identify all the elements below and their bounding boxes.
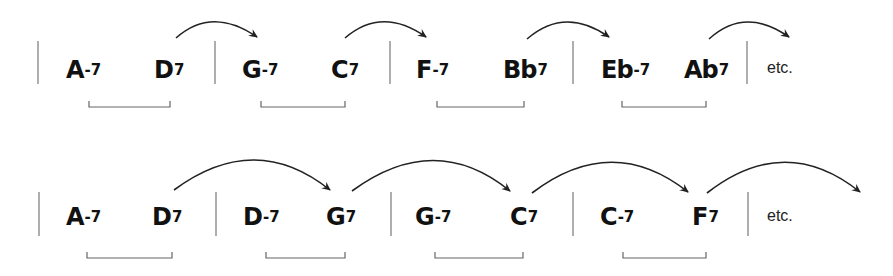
arrow-icon bbox=[352, 161, 510, 192]
chord-quality: -7 bbox=[85, 208, 102, 226]
chord-quality: -7 bbox=[618, 208, 635, 226]
chord-d-minor7: D-7 bbox=[243, 203, 280, 231]
chord-root: Ab bbox=[684, 56, 718, 84]
chord-root: C bbox=[600, 203, 617, 231]
chord-quality: -7 bbox=[432, 61, 449, 79]
bracket bbox=[87, 252, 172, 258]
chord-f-minor7: F-7 bbox=[416, 56, 449, 84]
chord-quality: 7 bbox=[708, 208, 718, 226]
arrow-icon bbox=[174, 160, 330, 190]
chord-root: D bbox=[243, 203, 262, 231]
chord-g-minor7: G-7 bbox=[415, 203, 451, 231]
chord-root: C bbox=[510, 203, 527, 231]
chord-quality: -7 bbox=[262, 61, 279, 79]
chord-c7: C7 bbox=[331, 56, 359, 84]
chord-root: G bbox=[326, 203, 345, 231]
chord-g-minor7: G-7 bbox=[242, 56, 278, 84]
chord-quality: 7 bbox=[172, 208, 182, 226]
arrow-icon bbox=[345, 22, 426, 38]
arrow-icon bbox=[176, 22, 257, 38]
row1-brackets bbox=[89, 101, 706, 107]
diagram-lines bbox=[0, 0, 893, 276]
bracket bbox=[266, 252, 345, 258]
row2-arrows bbox=[174, 160, 860, 193]
arrow-icon bbox=[709, 22, 789, 39]
chord-root: D bbox=[152, 203, 171, 231]
etc-label: etc. bbox=[767, 207, 793, 225]
chord-c7: C7 bbox=[510, 203, 538, 231]
chord-root: C bbox=[331, 56, 348, 84]
row1-arrows bbox=[176, 22, 789, 39]
chord-quality: 7 bbox=[174, 61, 184, 79]
chord-quality: -7 bbox=[634, 61, 651, 79]
chord-quality: 7 bbox=[537, 61, 547, 79]
chord-quality: 7 bbox=[346, 208, 356, 226]
chord-progression-diagram: A-7 D7 G-7 C7 F-7 Bb7 Eb-7 Ab7 etc. A-7 … bbox=[0, 0, 893, 276]
chord-quality: 7 bbox=[528, 208, 538, 226]
bracket bbox=[623, 252, 706, 258]
chord-root: F bbox=[416, 56, 431, 84]
chord-quality: -7 bbox=[85, 61, 102, 79]
chord-root: Bb bbox=[503, 56, 536, 84]
chord-root: G bbox=[415, 203, 434, 231]
arrow-icon bbox=[707, 162, 860, 193]
chord-root: F bbox=[692, 203, 707, 231]
chord-f7: F7 bbox=[692, 203, 719, 231]
chord-quality: -7 bbox=[263, 208, 280, 226]
bracket bbox=[622, 101, 706, 107]
arrow-icon bbox=[527, 22, 609, 39]
chord-g7: G7 bbox=[326, 203, 356, 231]
chord-d7: D7 bbox=[154, 56, 184, 84]
bracket bbox=[89, 101, 170, 107]
chord-a-minor7: A-7 bbox=[66, 56, 101, 84]
chord-eb-minor7: Eb-7 bbox=[601, 56, 650, 84]
row2-brackets bbox=[87, 252, 706, 258]
chord-bb7: Bb7 bbox=[503, 56, 548, 84]
chord-quality: 7 bbox=[349, 61, 359, 79]
chord-root: A bbox=[66, 203, 84, 231]
row2-barlines bbox=[39, 192, 748, 236]
chord-root: Eb bbox=[601, 56, 633, 84]
bracket bbox=[437, 101, 524, 107]
arrow-icon bbox=[532, 162, 688, 193]
bracket bbox=[261, 101, 345, 107]
chord-a-minor7: A-7 bbox=[66, 203, 101, 231]
chord-root: G bbox=[242, 56, 261, 84]
chord-root: D bbox=[154, 56, 173, 84]
chord-quality: -7 bbox=[435, 208, 452, 226]
chord-ab7: Ab7 bbox=[684, 56, 729, 84]
chord-quality: 7 bbox=[719, 61, 729, 79]
chord-c-minor7: C-7 bbox=[600, 203, 634, 231]
chord-root: A bbox=[66, 56, 84, 84]
chord-d7: D7 bbox=[152, 203, 182, 231]
etc-label: etc. bbox=[767, 59, 793, 77]
bracket bbox=[435, 252, 523, 258]
